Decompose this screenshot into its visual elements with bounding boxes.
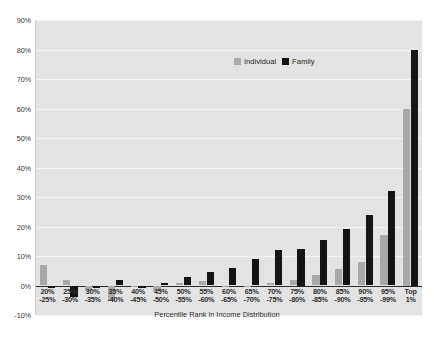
gridline xyxy=(36,79,422,80)
y-axis-tick-label: 80% xyxy=(0,46,31,55)
bar-individual-12 xyxy=(312,275,319,285)
x-axis-tick-label: 70%-75% xyxy=(263,288,286,305)
x-axis-tick-label: 45%-50% xyxy=(150,288,173,305)
gridline xyxy=(36,109,422,110)
bar-family-15 xyxy=(388,191,395,285)
bar-individual-14 xyxy=(358,262,365,286)
legend-item-individual: Individual xyxy=(234,57,276,66)
y-axis-tick-label: 20% xyxy=(0,223,31,232)
bar-individual-15 xyxy=(380,235,387,285)
x-axis-tick-label-line: -30% xyxy=(59,296,82,304)
gridline xyxy=(36,20,422,21)
bar-family-3 xyxy=(116,280,123,286)
bar-individual-11 xyxy=(290,280,297,286)
bar-individual-7 xyxy=(199,281,206,285)
x-axis-tick-label-line: -45% xyxy=(127,296,150,304)
bar-family-14 xyxy=(366,215,373,286)
x-axis-tick-label-line: -85% xyxy=(308,296,331,304)
bar-family-11 xyxy=(297,249,304,286)
bar-family-13 xyxy=(343,229,350,285)
x-axis-tick-label-line: -35% xyxy=(81,296,104,304)
x-axis-tick-label-line: -80% xyxy=(286,296,309,304)
chart-legend: Individual Family xyxy=(234,57,314,66)
x-axis-tick-label-line: Top 1% xyxy=(399,288,422,305)
bar-family-6 xyxy=(184,277,191,286)
bar-family-10 xyxy=(275,250,282,285)
y-axis-tick-label: 60% xyxy=(0,105,31,114)
x-axis-tick-label: 90%-95% xyxy=(354,288,377,305)
x-axis-tick-label: 50%-55% xyxy=(172,288,195,305)
x-axis-tick-label-line: -55% xyxy=(172,296,195,304)
legend-item-family: Family xyxy=(282,57,314,66)
bar-individual-16 xyxy=(403,109,410,286)
x-axis-tick-label: 20%-25% xyxy=(36,288,59,305)
bar-individual-10 xyxy=(267,283,274,286)
x-axis-tick-label: 80%-85% xyxy=(308,288,331,305)
bar-family-12 xyxy=(320,240,327,286)
x-axis-tick-label-line: -95% xyxy=(354,296,377,304)
x-axis-tick-label-line: -70% xyxy=(240,296,263,304)
y-axis-tick-label: 10% xyxy=(0,252,31,261)
bar-individual-13 xyxy=(335,269,342,285)
x-axis-labels: 20%-25%25%-30%30%-35%35%-40%40%-45%45%-5… xyxy=(36,288,422,312)
bar-family-9 xyxy=(252,259,259,286)
gridline xyxy=(36,256,422,257)
x-axis-title: Percentile Rank in Income Distribution xyxy=(0,310,434,319)
x-axis-tick-label-line: -25% xyxy=(36,296,59,304)
x-axis-tick-label-line: -50% xyxy=(150,296,173,304)
y-axis-tick-label: 70% xyxy=(0,75,31,84)
x-axis-tick-label-line: -99% xyxy=(377,296,400,304)
bar-family-7 xyxy=(207,272,214,285)
x-axis-tick-label-line: -65% xyxy=(218,296,241,304)
gridline xyxy=(36,50,422,51)
x-axis-tick-label-line: -90% xyxy=(331,296,354,304)
x-axis-tick-label: 95%-99% xyxy=(377,288,400,305)
legend-label-family: Family xyxy=(292,57,314,66)
gridline xyxy=(36,168,422,169)
bar-individual-6 xyxy=(176,283,183,286)
bar-family-5 xyxy=(161,283,168,286)
x-axis-tick-label: 25%-30% xyxy=(59,288,82,305)
gridline xyxy=(36,227,422,228)
bar-family-16 xyxy=(411,50,418,286)
legend-swatch-individual xyxy=(234,58,241,65)
legend-swatch-family xyxy=(282,58,289,65)
legend-label-individual: Individual xyxy=(244,57,276,66)
y-axis-tick-label: 40% xyxy=(0,164,31,173)
y-axis-tick-label: 30% xyxy=(0,193,31,202)
bar-chart: 90%80%70%60%50%40%30%20%10%0%-10% 20%-25… xyxy=(0,0,434,339)
x-axis-tick-label: Top 1% xyxy=(399,288,422,305)
y-axis-tick-label: 50% xyxy=(0,134,31,143)
x-axis-tick-label: 30%-35% xyxy=(81,288,104,305)
x-axis-tick-label-line: -60% xyxy=(195,296,218,304)
y-axis-tick-label: 0% xyxy=(0,282,31,291)
y-axis-tick-label: 90% xyxy=(0,16,31,25)
x-axis-tick-label: 60%-65% xyxy=(218,288,241,305)
x-axis-tick-label: 75%-80% xyxy=(286,288,309,305)
x-axis-tick-label: 35%-40% xyxy=(104,288,127,305)
x-axis-tick-label: 55%-60% xyxy=(195,288,218,305)
gridline xyxy=(36,197,422,198)
x-axis-tick-label-line: -40% xyxy=(104,296,127,304)
gridline xyxy=(36,138,422,139)
x-axis-tick-label: 40%-45% xyxy=(127,288,150,305)
x-axis-tick-label-line: -75% xyxy=(263,296,286,304)
x-axis-tick-label: 85%-90% xyxy=(331,288,354,305)
bar-family-8 xyxy=(229,268,236,286)
bar-individual-1 xyxy=(63,280,70,286)
y-axis-line xyxy=(35,20,36,315)
bar-individual-0 xyxy=(40,265,47,286)
x-axis-tick-label: 65%-70% xyxy=(240,288,263,305)
